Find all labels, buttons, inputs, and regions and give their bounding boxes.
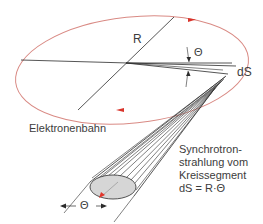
angle-arrow-bottom-icon — [186, 71, 191, 76]
synchrotron-diagram: R Θ dS Elektronenbahn Synchrotron- strah… — [0, 0, 263, 224]
electron-orbit — [10, 5, 254, 135]
angle-arrow-top-icon — [187, 57, 192, 62]
caption-formula: dS = R·Θ — [179, 182, 248, 195]
radius-label: R — [133, 33, 142, 46]
caption-line-2: strahlung vom — [179, 156, 248, 169]
angle-label-top: Θ — [194, 46, 203, 59]
segment-label: dS — [237, 66, 252, 79]
caption-line-1: Synchrotron- — [179, 143, 248, 156]
beam-cross-section — [90, 175, 136, 199]
cone-angle-arrow-right-icon — [101, 204, 107, 209]
caption: Synchrotron- strahlung vom Kreissegment … — [179, 143, 248, 195]
caption-line-3: Kreissegment — [179, 169, 248, 182]
orbit-arrow-bottom-icon — [116, 108, 124, 112]
cone-angle-arrow-left-icon — [60, 204, 66, 209]
cone-angle-guide-right — [114, 196, 134, 222]
orbit-label: Elektronenbahn — [29, 122, 106, 135]
cone-angle-label: Θ — [80, 199, 89, 212]
